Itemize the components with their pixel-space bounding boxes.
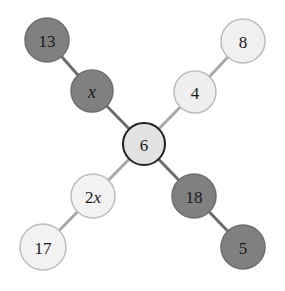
graph-node-17[interactable]: 17 <box>20 224 66 270</box>
graph-edge <box>157 158 180 182</box>
graph-node-8[interactable]: 8 <box>221 19 265 63</box>
node-circle[interactable] <box>221 19 265 63</box>
graph-canvas: 13x8462x17185 <box>0 0 285 291</box>
node-circle[interactable] <box>174 71 216 113</box>
graph-node-13[interactable]: 13 <box>25 18 69 62</box>
node-circle[interactable] <box>71 174 115 218</box>
graph-node-5[interactable]: 5 <box>221 225 265 269</box>
node-circle[interactable] <box>221 225 265 269</box>
nodes-layer: 13x8462x17185 <box>20 18 265 270</box>
node-circle[interactable] <box>25 18 69 62</box>
graph-edge <box>60 55 79 77</box>
node-link-diagram: 13x8462x17185 <box>0 0 285 291</box>
graph-edge <box>157 106 181 131</box>
node-circle[interactable] <box>71 70 113 112</box>
graph-node-18[interactable]: 18 <box>172 174 216 218</box>
graph-node-6[interactable]: 6 <box>123 123 165 165</box>
node-circle[interactable] <box>123 123 165 165</box>
graph-edge <box>105 105 130 131</box>
graph-node-x[interactable]: x <box>71 70 113 112</box>
node-circle[interactable] <box>172 174 216 218</box>
graph-edge <box>208 210 229 232</box>
graph-edge <box>208 56 229 79</box>
node-circle[interactable] <box>20 224 66 270</box>
graph-node-4[interactable]: 4 <box>174 71 216 113</box>
graph-edge <box>107 158 131 182</box>
graph-node-2x[interactable]: 2x <box>71 174 115 218</box>
graph-edge <box>58 210 79 232</box>
